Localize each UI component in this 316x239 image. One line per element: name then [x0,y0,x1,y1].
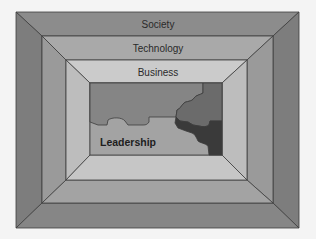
technology-label: Technology [133,43,184,54]
business-bottom [66,155,247,180]
business-label: Business [138,67,179,78]
society-bottom [16,203,299,228]
technology-right [247,36,273,203]
nested-frames-diagram: Society Technology Business Leadership [0,0,316,239]
leadership-label: Leadership [100,136,156,148]
technology-bottom [42,180,273,203]
society-label: Society [142,19,175,30]
society-left [16,12,42,228]
technology-left [42,36,66,203]
society-right [273,12,299,228]
